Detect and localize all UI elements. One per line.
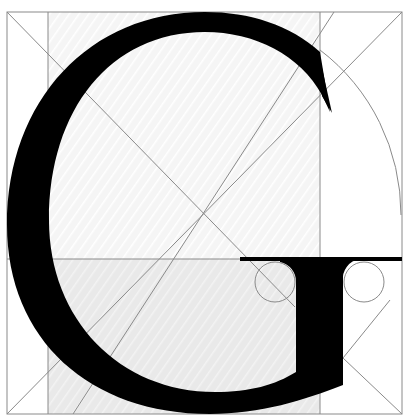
- letter-construction-figure: [0, 0, 411, 418]
- construction-arc: [320, 50, 401, 215]
